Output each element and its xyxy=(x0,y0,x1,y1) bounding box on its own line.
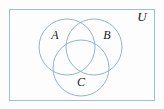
venn-diagram-canvas: U A B C xyxy=(0,0,164,109)
set-a-label: A xyxy=(50,28,59,42)
universal-set-label: U xyxy=(137,9,148,24)
set-b-label: B xyxy=(103,28,111,42)
venn-diagram-figure: U A B C xyxy=(0,0,164,109)
set-c-label: C xyxy=(77,75,86,89)
